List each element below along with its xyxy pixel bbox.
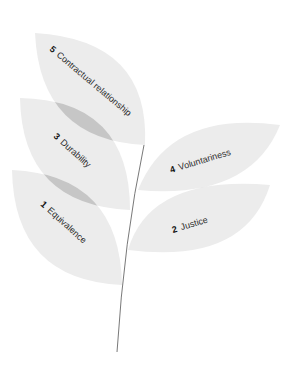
leaf-diagram: 5Contractual relationship 3Durability 1E… bbox=[0, 0, 281, 371]
